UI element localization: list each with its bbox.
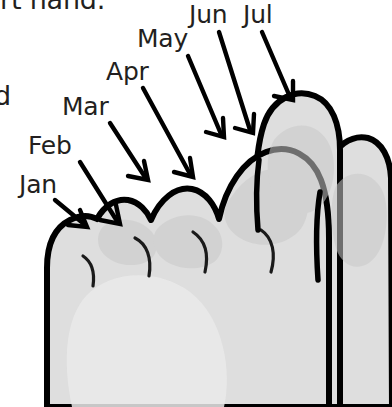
hand-illustration [0, 0, 392, 407]
label-jan: Jan [19, 172, 57, 197]
label-jul: Jul [243, 2, 273, 27]
arrow-mar [110, 123, 148, 180]
label-apr: Apr [106, 59, 149, 84]
figure-canvas: rt hand. d Jan Feb Mar Apr May Jun Jul [0, 0, 392, 407]
arrow-apr [143, 88, 193, 177]
label-feb: Feb [28, 133, 72, 158]
label-jun: Jun [189, 2, 227, 27]
label-may: May [137, 26, 188, 51]
arrow-may [188, 56, 224, 137]
caption-top-cropped: rt hand. [0, 0, 105, 15]
caption-left-cropped: d [0, 80, 11, 111]
label-mar: Mar [62, 94, 109, 119]
arrow-jul [262, 32, 293, 100]
separation-index [257, 160, 259, 230]
